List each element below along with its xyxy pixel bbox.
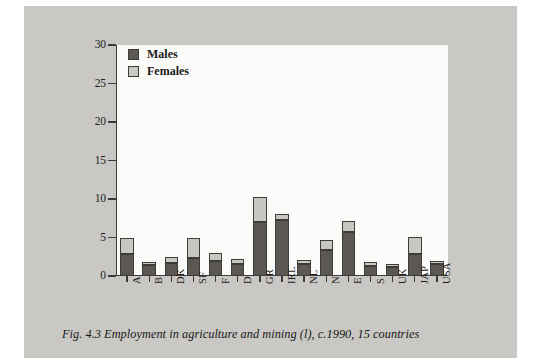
legend-item-males: Males: [128, 48, 189, 61]
x-axis-tick-label: UK: [397, 268, 408, 284]
bar-group: [320, 240, 334, 276]
bar-segment-females: [408, 237, 422, 254]
bar-segment-females: [187, 238, 201, 259]
x-axis-tick: [237, 276, 238, 282]
x-axis-tick: [348, 276, 349, 282]
bar-segment-males: [364, 266, 378, 276]
bar-group: [231, 259, 245, 276]
y-axis-tick: [108, 237, 116, 238]
x-axis-tick: [436, 276, 437, 282]
x-axis-tick: [414, 276, 415, 282]
x-axis-tick: [303, 276, 304, 282]
bar-segment-males: [253, 222, 267, 276]
bar-segment-males: [231, 264, 245, 276]
legend-swatch-icon-females: [128, 66, 139, 77]
y-axis-tick: [108, 44, 116, 45]
x-axis-tick-label: USA: [441, 262, 452, 284]
x-axis-tick-label: B: [153, 277, 164, 284]
x-axis-tick: [149, 276, 150, 282]
figure-page: 051015202530 ABDKSFFDGRIRLNLNESUKJAPUSA …: [0, 0, 541, 364]
x-axis-tick: [392, 276, 393, 282]
chart-legend: Males Females: [128, 48, 189, 82]
legend-label-males: Males: [147, 47, 178, 62]
x-axis-tick: [281, 276, 282, 282]
bar-segment-males: [142, 265, 156, 276]
x-axis-tick-label: S: [375, 278, 386, 284]
bar-segment-females: [120, 238, 134, 255]
legend-item-females: Females: [128, 65, 189, 78]
y-axis-tick: [108, 275, 116, 276]
x-axis-tick-label: JAP: [419, 266, 430, 284]
x-axis-tick: [171, 276, 172, 282]
bar-segment-males: [120, 254, 134, 276]
bar-segment-males: [320, 250, 334, 276]
bar-group: [364, 262, 378, 276]
bar-segment-males: [209, 261, 223, 276]
x-axis-tick: [215, 276, 216, 282]
x-axis-tick-label: D: [242, 276, 253, 284]
bar-group: [142, 262, 156, 276]
y-axis-tick-label: 0: [76, 270, 106, 282]
y-axis-labels: 051015202530: [72, 0, 106, 364]
y-axis-tick-label: 30: [76, 39, 106, 51]
x-axis-tick-label: IRL: [286, 266, 297, 284]
legend-swatch-icon-males: [128, 49, 139, 60]
x-axis-tick-label: E: [352, 277, 363, 284]
bar-segment-females: [342, 221, 356, 232]
bar-group: [342, 221, 356, 276]
x-axis-tick: [370, 276, 371, 282]
bar-group: [187, 238, 201, 277]
bar-segment-females: [320, 240, 334, 250]
y-axis-tick-label: 15: [76, 155, 106, 167]
bar-segment-females: [253, 197, 267, 222]
x-axis-tick-label: DK: [175, 268, 186, 284]
x-axis-tick: [126, 276, 127, 282]
y-axis-tick-label: 5: [76, 232, 106, 244]
x-axis-tick-label: NL: [308, 270, 319, 284]
bar-group: [253, 197, 267, 276]
y-axis-tick-label: 25: [76, 78, 106, 90]
bar-group: [120, 238, 134, 277]
y-axis-tick-label: 20: [76, 116, 106, 128]
bar-segment-males: [342, 232, 356, 276]
y-axis-tick: [108, 160, 116, 161]
x-axis-tick: [193, 276, 194, 282]
y-axis-tick: [108, 83, 116, 84]
x-axis-tick-label: A: [131, 276, 142, 284]
x-axis-tick-label: F: [220, 278, 231, 284]
x-axis-tick: [326, 276, 327, 282]
legend-label-females: Females: [147, 64, 189, 79]
y-axis-tick-label: 10: [76, 193, 106, 205]
x-axis-tick-label: N: [330, 276, 341, 284]
x-axis-tick: [259, 276, 260, 282]
y-axis-tick: [108, 198, 116, 199]
figure-caption: Fig. 4.3 Employment in agriculture and m…: [62, 327, 492, 342]
bar-group: [209, 253, 223, 276]
bar-segment-females: [209, 253, 223, 261]
y-axis-tick: [108, 121, 116, 122]
x-axis-tick-label: SF: [197, 272, 208, 284]
x-axis-tick-label: GR: [264, 269, 275, 284]
